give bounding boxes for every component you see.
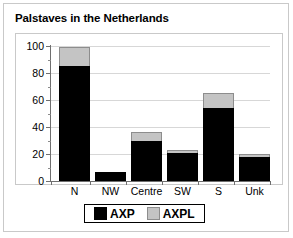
x-axis-label-nw: NW (102, 185, 120, 197)
black-square-swatch-icon (94, 207, 107, 220)
y-tick-100 (46, 46, 51, 47)
y-tick-minor-70 (48, 87, 51, 88)
plot-area: 100 80 60 40 20 0 (51, 46, 270, 181)
bar-group-nw[interactable]: NW (95, 172, 126, 182)
x-axis-label-n: N (71, 185, 79, 197)
y-tick-40 (46, 127, 51, 128)
bar-segment-axp-n[interactable] (59, 66, 90, 181)
gray-square-swatch-icon (147, 207, 160, 220)
legend-item-axpl[interactable]: AXPL (147, 207, 195, 220)
x-axis-label-s: S (215, 185, 222, 197)
x-axis-label-unk: Unk (245, 185, 264, 197)
bar-segment-axp-centre[interactable] (131, 141, 162, 182)
bar-segment-axp-nw[interactable] (95, 172, 126, 182)
x-tick-centre (126, 181, 127, 185)
chart-legend: AXP AXPL (84, 204, 205, 223)
y-tick-60 (46, 100, 51, 101)
bar-group-s[interactable]: S (203, 93, 234, 181)
bar-group-unk[interactable]: Unk (239, 154, 270, 181)
page-title: Palstaves in the Netherlands (15, 12, 169, 24)
x-tick-sw (162, 181, 163, 185)
bar-segment-axp-unk[interactable] (239, 157, 270, 181)
x-tick-n (51, 181, 52, 185)
y-tick-minor-30 (48, 141, 51, 142)
y-axis-label-80: 80 (32, 67, 44, 79)
x-tick-end (270, 181, 271, 185)
bar-group-n[interactable]: N (59, 47, 90, 181)
y-axis-label-0: 0 (38, 175, 44, 187)
bar-segment-axpl-s[interactable] (203, 93, 234, 108)
y-tick-minor-50 (48, 114, 51, 115)
y-axis-label-20: 20 (32, 148, 44, 160)
bar-segment-axp-s[interactable] (203, 108, 234, 181)
x-axis-line (50, 181, 271, 182)
bar-segment-axpl-n[interactable] (59, 47, 90, 66)
y-tick-minor-90 (48, 60, 51, 61)
y-axis-label-40: 40 (32, 121, 44, 133)
x-axis-label-centre: Centre (131, 185, 163, 197)
legend-label-axpl: AXPL (163, 208, 195, 220)
bar-group-sw[interactable]: SW (167, 150, 198, 181)
bar-segment-axp-sw[interactable] (167, 153, 198, 181)
y-axis-label-60: 60 (32, 94, 44, 106)
y-axis-label-100: 100 (26, 40, 44, 52)
legend-label-axp: AXP (110, 208, 135, 220)
y-tick-minor-10 (48, 168, 51, 169)
y-tick-20 (46, 154, 51, 155)
bar-segment-axpl-centre[interactable] (131, 132, 162, 140)
figure-frame: Palstaves in the Netherlands 100 80 60 4… (3, 3, 289, 232)
y-tick-80 (46, 73, 51, 74)
x-tick-unk (234, 181, 235, 185)
bar-group-centre[interactable]: Centre (131, 132, 162, 181)
x-tick-nw (90, 181, 91, 185)
x-tick-s (198, 181, 199, 185)
chart-screenshot: Palstaves in the Netherlands 100 80 60 4… (0, 0, 293, 238)
x-axis-label-sw: SW (174, 185, 191, 197)
legend-item-axp[interactable]: AXP (94, 207, 135, 220)
